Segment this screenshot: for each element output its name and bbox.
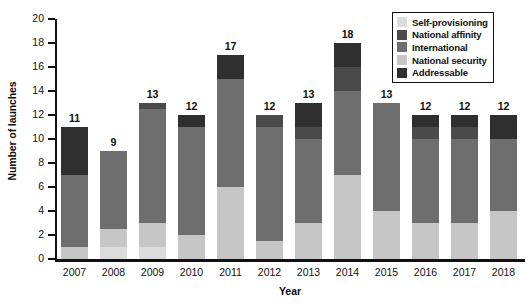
bar-group[interactable]: 122018 [490,19,517,259]
y-axis-tick-label: 10 [20,133,44,144]
bar-total-label: 12 [498,100,510,112]
bar-group[interactable]: 132013 [295,19,322,259]
x-axis-tick-label: 2011 [219,266,242,278]
y-axis-tick-label: 2 [20,229,44,240]
y-axis-tick-label: 4 [20,205,44,216]
bar-segment[interactable] [490,115,517,139]
bar-segment[interactable] [139,103,166,109]
legend-item-label: Self-provisioning [412,17,488,28]
y-axis-tick [48,114,55,116]
legend-item[interactable]: Addressable [397,66,488,79]
y-axis-tick-label: 14 [20,85,44,96]
bar-segment[interactable] [217,187,244,259]
bar-segment[interactable] [178,127,205,235]
bar-group[interactable]: 182014 [334,19,361,259]
x-axis-tick-label: 2013 [297,266,320,278]
bar-total-label: 18 [342,28,354,40]
bar-segment[interactable] [217,55,244,79]
x-axis-tick-label: 2007 [63,266,86,278]
bar-segment[interactable] [100,151,127,229]
bar-segment[interactable] [412,223,439,259]
bar-total-label: 12 [459,100,471,112]
y-axis-tick-label: 0 [20,253,44,264]
legend-item-label: International [412,42,468,53]
bar-segment[interactable] [334,91,361,175]
y-axis-tick-label: 12 [20,109,44,120]
x-axis-line [55,259,525,262]
y-axis-tick [48,258,55,260]
y-axis-tick [48,162,55,164]
x-axis-tick-label: 2012 [258,266,281,278]
bar-group[interactable]: 132009 [139,19,166,259]
bar-group[interactable]: 92008 [100,19,127,259]
bar-total-label: 12 [420,100,432,112]
bar-group[interactable]: 122012 [256,19,283,259]
bar-total-label: 12 [264,100,276,112]
bar-segment[interactable] [100,247,127,259]
bar-group[interactable]: 172011 [217,19,244,259]
bar-segment[interactable] [412,127,439,139]
bar-segment[interactable] [451,115,478,127]
x-axis-tick-label: 2009 [141,266,164,278]
bar-segment[interactable] [412,115,439,127]
bar-segment[interactable] [295,103,322,127]
bar-segment[interactable] [256,241,283,259]
y-axis-tick-label: 18 [20,37,44,48]
chart-figure: Number of launches Year 0246810121416182… [0,0,530,304]
bar-segment[interactable] [373,211,400,259]
x-axis-tick-label: 2008 [102,266,125,278]
x-axis-tick-label: 2015 [375,266,398,278]
bar-segment[interactable] [178,115,205,127]
bar-group[interactable]: 122010 [178,19,205,259]
bar-segment[interactable] [61,127,88,175]
bar-total-label: 12 [186,100,198,112]
bar-segment[interactable] [295,127,322,139]
bar-group[interactable]: 112007 [61,19,88,259]
y-axis-tick [48,234,55,236]
x-axis-tick-label: 2018 [492,266,515,278]
bar-segment[interactable] [334,175,361,259]
legend-swatch-icon [397,30,407,40]
x-axis-tick-label: 2010 [180,266,203,278]
bar-segment[interactable] [61,175,88,247]
bar-segment[interactable] [334,67,361,91]
bar-segment[interactable] [139,109,166,223]
bar-segment[interactable] [451,223,478,259]
bar-segment[interactable] [139,247,166,259]
bar-total-label: 13 [147,88,159,100]
bar-segment[interactable] [256,127,283,241]
legend-swatch-icon [397,55,407,65]
legend-item[interactable]: International [397,41,488,54]
bar-segment[interactable] [373,103,400,211]
y-axis-tick-label: 20 [20,13,44,24]
bar-segment[interactable] [100,229,127,247]
bar-segment[interactable] [295,223,322,259]
bar-segment[interactable] [256,115,283,127]
bar-segment[interactable] [451,127,478,139]
bar-total-label: 9 [111,136,117,148]
legend-item[interactable]: National affinity [397,29,488,42]
x-axis-tick-label: 2016 [414,266,437,278]
legend-item-label: National affinity [412,29,481,40]
bar-total-label: 13 [381,88,393,100]
bar-segment[interactable] [451,139,478,223]
legend-item[interactable]: National security [397,54,488,67]
bar-segment[interactable] [139,223,166,247]
chart-legend: Self-provisioningNational affinityIntern… [392,12,494,83]
bar-segment[interactable] [178,235,205,259]
bar-segment[interactable] [61,247,88,259]
bar-segment[interactable] [490,139,517,211]
bar-segment[interactable] [334,43,361,67]
bar-segment[interactable] [490,211,517,259]
y-axis-tick-label: 8 [20,157,44,168]
legend-swatch-icon [397,42,407,52]
bar-total-label: 13 [303,88,315,100]
y-axis-tick [48,90,55,92]
bar-segment[interactable] [412,139,439,223]
bar-segment[interactable] [295,139,322,223]
x-axis-title: Year [55,285,525,297]
y-axis-tick-label: 6 [20,181,44,192]
legend-item[interactable]: Self-provisioning [397,16,488,29]
legend-swatch-icon [397,17,407,27]
bar-segment[interactable] [217,79,244,187]
